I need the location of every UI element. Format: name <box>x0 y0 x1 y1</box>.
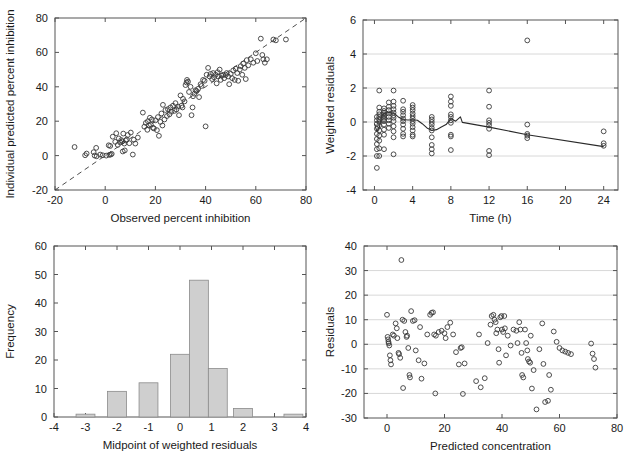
data-point <box>474 379 479 384</box>
data-point <box>395 336 400 341</box>
plot-residuals-vs-predicted-concentration: 020406080-30-20-10010203040Predicted con… <box>320 232 637 463</box>
y-tick-label: 0 <box>42 150 48 162</box>
y-tick-label: -30 <box>341 412 357 424</box>
plot-frame <box>364 246 617 418</box>
data-point <box>227 82 232 87</box>
y-tick-label: -20 <box>32 184 48 196</box>
data-point <box>504 353 509 358</box>
y-tick-label: 10 <box>345 314 357 326</box>
panel-histogram-weighted-residuals: -4-3-2-1012340102030405060Midpoint of we… <box>0 232 320 463</box>
data-point <box>525 38 530 43</box>
gridlines <box>364 271 617 394</box>
data-points <box>374 38 606 170</box>
x-tick-label: 0 <box>102 194 108 206</box>
data-point <box>393 321 398 326</box>
data-point <box>554 339 559 344</box>
x-tick-label: 1 <box>208 421 214 433</box>
data-point <box>188 84 193 89</box>
data-point <box>391 88 396 93</box>
y-tick-label: 20 <box>35 354 47 366</box>
y-tick-label: 4 <box>350 48 356 60</box>
panel-residuals-vs-predicted-concentration: 020406080-30-20-10010203040Predicted con… <box>320 232 637 463</box>
x-tick-label: 80 <box>611 422 623 434</box>
data-point <box>478 385 483 390</box>
data-point <box>159 111 164 116</box>
data-point <box>114 131 119 136</box>
data-point <box>563 349 568 354</box>
data-point <box>246 63 251 68</box>
x-tick-label: 24 <box>598 194 610 206</box>
data-point <box>592 357 597 362</box>
data-point <box>528 333 533 338</box>
data-point <box>418 325 423 330</box>
y-tick-label: 20 <box>36 115 48 127</box>
x-axis-title: Midpoint of weighted residuals <box>103 439 258 451</box>
data-point <box>528 360 533 365</box>
data-point <box>162 117 167 122</box>
y-axis-title: Frequency <box>4 304 16 359</box>
plot-individual-predicted-vs-observed: -20020406080-20020406080Observed percent… <box>0 0 320 232</box>
x-tick-label: 20 <box>149 194 161 206</box>
data-point <box>243 77 248 82</box>
x-axis-title: Time (h) <box>469 212 512 224</box>
data-point <box>258 36 263 41</box>
x-tick-label: 8 <box>448 194 454 206</box>
data-point <box>189 113 194 118</box>
y-tick-label: 6 <box>350 14 356 26</box>
data-point <box>477 332 482 337</box>
y-tick-label: 40 <box>345 240 357 252</box>
data-points <box>385 258 598 412</box>
y-tick-label: 30 <box>35 326 47 338</box>
histogram-bar <box>139 383 158 417</box>
data-point <box>546 398 551 403</box>
panel-weighted-residuals-vs-time: 04812162024-4-20246Time (h)Weighted resi… <box>320 0 637 232</box>
y-tick-label: 40 <box>35 297 47 309</box>
histogram-bar <box>284 414 303 417</box>
data-point <box>406 346 411 351</box>
y-tick-label: 50 <box>35 269 47 281</box>
data-point <box>496 347 501 352</box>
x-tick-label: 60 <box>553 422 565 434</box>
data-point <box>157 133 162 138</box>
y-axis-title: Residuals <box>324 307 336 358</box>
data-point <box>130 152 135 157</box>
data-point <box>391 135 396 140</box>
y-tick-label: 60 <box>35 240 47 252</box>
data-point <box>530 386 535 391</box>
data-point <box>202 78 207 83</box>
x-axis-title: Predicted concentration <box>430 440 551 452</box>
data-point <box>451 332 456 337</box>
data-point <box>177 113 182 118</box>
y-tick-label: -4 <box>346 184 356 196</box>
x-tick-label: 0 <box>177 421 183 433</box>
data-point <box>284 37 289 42</box>
y-axis-title: Individual predicted percent inhibition <box>4 9 16 198</box>
y-tick-label: 0 <box>351 338 357 350</box>
data-point <box>214 81 219 86</box>
data-point <box>382 127 387 132</box>
data-point <box>541 362 546 367</box>
data-point <box>482 376 487 381</box>
data-point <box>497 360 502 365</box>
plot-histogram-weighted-residuals: -4-3-2-1012340102030405060Midpoint of we… <box>0 232 320 463</box>
data-point <box>505 333 510 338</box>
data-point <box>525 348 530 353</box>
data-point <box>401 98 406 103</box>
data-point <box>391 129 396 134</box>
data-point <box>511 327 516 332</box>
x-tick-label: 60 <box>250 194 262 206</box>
y-tick-label: 0 <box>41 411 47 423</box>
data-point <box>391 119 396 124</box>
data-point <box>121 131 126 136</box>
data-point <box>589 341 594 346</box>
x-tick-label: -1 <box>144 421 154 433</box>
data-point <box>377 88 382 93</box>
x-tick-label: 20 <box>559 194 571 206</box>
data-point <box>487 104 492 109</box>
data-point <box>525 122 530 127</box>
x-tick-label: 80 <box>300 194 312 206</box>
panel-individual-predicted-vs-observed: -20020406080-20020406080Observed percent… <box>0 0 320 232</box>
data-point <box>517 320 522 325</box>
data-point <box>547 373 552 378</box>
x-tick-label: 0 <box>371 194 377 206</box>
